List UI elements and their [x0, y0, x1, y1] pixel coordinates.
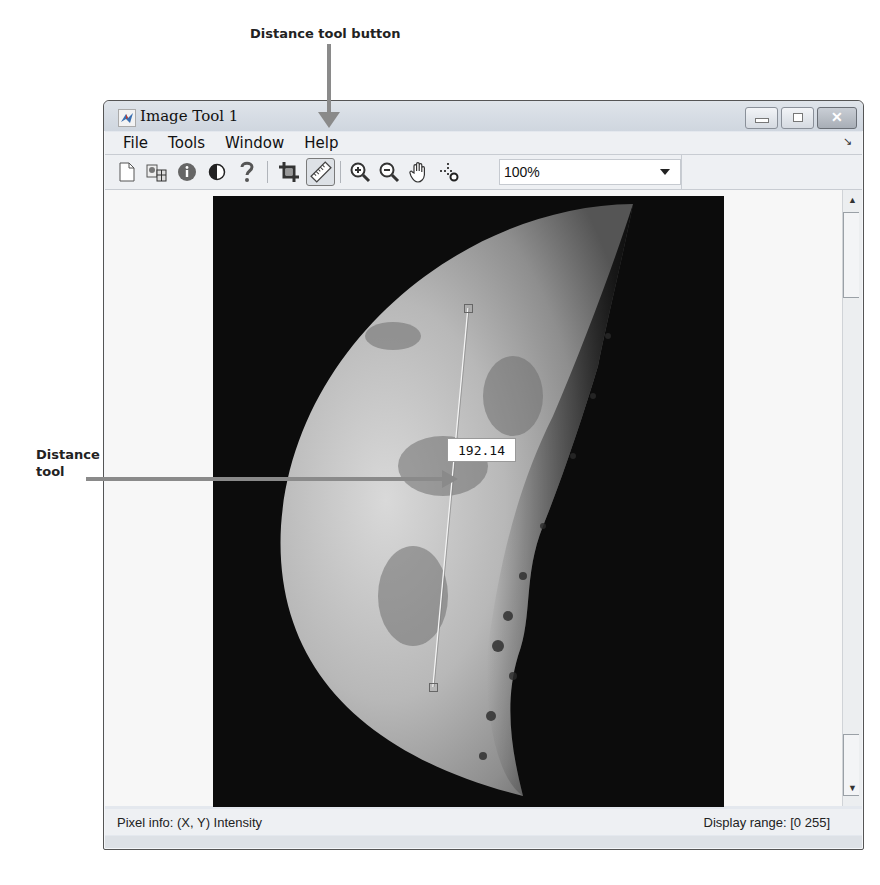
distance-tool-button-annotation: Distance tool button	[250, 25, 401, 42]
menu-bar: File Tools Window Help ↘	[105, 132, 862, 155]
crop-icon	[278, 161, 300, 183]
dock-figure-icon[interactable]: ↘	[843, 135, 852, 148]
window-title: Image Tool 1	[140, 107, 238, 125]
annotation-arrowhead-down	[318, 112, 340, 128]
new-figure-button[interactable]	[115, 160, 139, 184]
minimize-button[interactable]	[745, 107, 778, 129]
crop-image-button[interactable]	[277, 160, 301, 184]
toolbar-divider	[681, 155, 682, 189]
distance-value-label: 192.14	[447, 438, 516, 462]
zoom-in-button[interactable]	[348, 160, 372, 184]
display-range-text: Display range: [0 255]	[704, 815, 830, 830]
adjust-contrast-button[interactable]	[205, 160, 229, 184]
close-button[interactable]: ✕	[817, 107, 857, 129]
export-image-button[interactable]	[145, 160, 169, 184]
image-tool-window: Image Tool 1 ✕ File Tools Window Help ↘	[103, 100, 864, 850]
help-button[interactable]	[235, 160, 259, 184]
title-bar[interactable]: Image Tool 1 ✕	[104, 101, 863, 131]
toolbar-separator	[340, 161, 341, 183]
image-viewport[interactable]: 192.14	[105, 190, 842, 806]
info-icon	[177, 162, 197, 182]
zoom-out-button[interactable]	[377, 160, 401, 184]
zoom-out-icon	[378, 161, 400, 183]
distance-tool-annotation-line1: Distance	[36, 446, 100, 463]
distance-measurement-line[interactable]	[213, 196, 724, 807]
scroll-down-arrow-icon[interactable]: ▼	[843, 780, 862, 796]
zoom-level-value: 100%	[500, 164, 540, 180]
toolbar-separator	[267, 161, 268, 183]
annotation-arrow-right	[86, 477, 446, 481]
toolbar: 100%	[105, 155, 862, 190]
hand-icon	[408, 161, 430, 183]
pixel-region-button[interactable]	[437, 160, 461, 184]
minimize-icon	[755, 118, 769, 123]
contrast-icon	[208, 163, 226, 181]
vertical-scrollbar[interactable]: ▲ ▼	[842, 190, 862, 806]
distance-endpoint-handle-top[interactable]	[464, 304, 473, 313]
distance-tool-button[interactable]	[306, 158, 335, 186]
ruler-icon	[310, 161, 332, 183]
pixel-region-icon	[438, 161, 460, 183]
menu-file[interactable]: File	[115, 134, 156, 152]
menu-help[interactable]: Help	[296, 134, 346, 152]
scrollbar-thumb[interactable]	[843, 212, 859, 298]
zoom-level-dropdown[interactable]: 100%	[499, 159, 681, 185]
maximize-icon	[793, 113, 803, 122]
image-information-button[interactable]	[175, 160, 199, 184]
distance-endpoint-handle-bottom[interactable]	[429, 683, 438, 692]
pixel-info-text: Pixel info: (X, Y) Intensity	[117, 815, 262, 830]
annotation-arrowhead-right	[442, 470, 458, 488]
matlab-logo-icon	[118, 109, 136, 127]
window-controls: ✕	[745, 107, 857, 129]
distance-tool-annotation: Distance tool	[36, 446, 100, 480]
new-document-icon	[118, 162, 136, 182]
scroll-up-arrow-icon[interactable]: ▲	[843, 192, 862, 208]
help-icon	[239, 161, 255, 183]
close-icon: ✕	[818, 109, 856, 125]
menu-tools[interactable]: Tools	[160, 134, 213, 152]
status-bar: Pixel info: (X, Y) Intensity Display ran…	[105, 809, 862, 835]
maximize-button[interactable]	[781, 107, 814, 129]
zoom-in-icon	[349, 161, 371, 183]
moon-image[interactable]: 192.14	[213, 196, 724, 807]
window-bottom-border	[105, 836, 862, 848]
export-icon	[146, 162, 168, 182]
pan-button[interactable]	[407, 160, 431, 184]
menu-window[interactable]: Window	[217, 134, 292, 152]
chevron-down-icon	[660, 169, 670, 175]
